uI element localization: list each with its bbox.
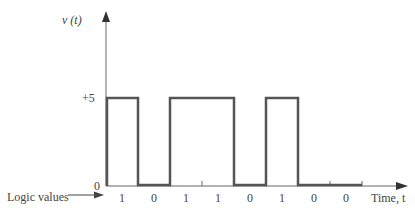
x-axis-label: Time, t bbox=[371, 192, 405, 204]
y-axis-label: v (t) bbox=[62, 14, 82, 26]
signal-trace bbox=[107, 98, 362, 186]
bit-label: 1 bbox=[119, 192, 125, 204]
bit-label: 0 bbox=[151, 192, 157, 204]
bit-label: 0 bbox=[343, 192, 349, 204]
x-axis-arrow-icon bbox=[396, 182, 408, 190]
bit-label: 1 bbox=[279, 192, 285, 204]
y-axis-arrow-icon bbox=[102, 11, 110, 22]
bit-label: 0 bbox=[247, 192, 253, 204]
waveform-diagram bbox=[0, 0, 415, 214]
logic-values-label: Logic values bbox=[7, 191, 69, 203]
logic-arrow-icon bbox=[66, 190, 106, 200]
bit-label: 1 bbox=[183, 192, 189, 204]
y-tick-plus5: +5 bbox=[82, 92, 95, 104]
bit-label: 1 bbox=[215, 192, 221, 204]
bit-label: 0 bbox=[311, 192, 317, 204]
